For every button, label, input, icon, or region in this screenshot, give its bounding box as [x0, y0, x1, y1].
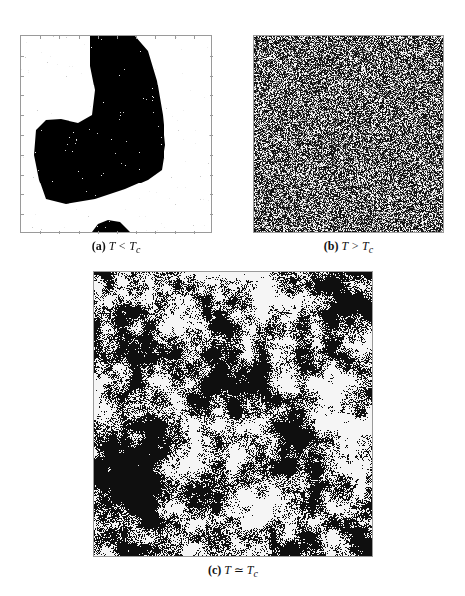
- caption-subscript: c: [136, 244, 140, 255]
- panel-a-low-temperature: [20, 35, 212, 233]
- caption-c: (c) T ≃ Tc: [93, 563, 373, 579]
- caption-subscript: c: [369, 244, 373, 255]
- spin-lattice-critical: [94, 272, 372, 556]
- spin-lattice-disordered: [254, 36, 443, 232]
- caption-math: T ≃ T: [224, 563, 253, 577]
- caption-math: T < T: [109, 239, 136, 253]
- spin-lattice-ordered: [21, 36, 211, 232]
- caption-label: (c): [208, 563, 221, 577]
- caption-label: (b): [324, 239, 339, 253]
- caption-label: (a): [92, 239, 106, 253]
- caption-math: T > T: [341, 239, 368, 253]
- caption-b: (b) T > Tc: [253, 239, 444, 255]
- panel-b-high-temperature: [253, 35, 444, 233]
- panel-c-critical-temperature: [93, 271, 373, 557]
- caption-subscript: c: [254, 568, 258, 579]
- caption-a: (a) T < Tc: [20, 239, 212, 255]
